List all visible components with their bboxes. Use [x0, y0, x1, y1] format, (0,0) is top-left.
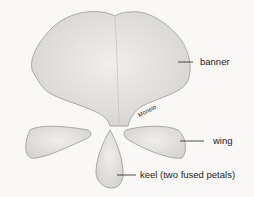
banner-petal	[32, 12, 191, 126]
left-wing-petal	[26, 126, 91, 158]
banner-label: banner	[200, 56, 230, 67]
wing-label: wing	[213, 135, 233, 146]
flower-illustration	[0, 0, 254, 197]
keel-petal	[96, 130, 123, 188]
keel-label: keel (two fused petals)	[140, 169, 235, 180]
right-wing-petal	[124, 126, 185, 158]
